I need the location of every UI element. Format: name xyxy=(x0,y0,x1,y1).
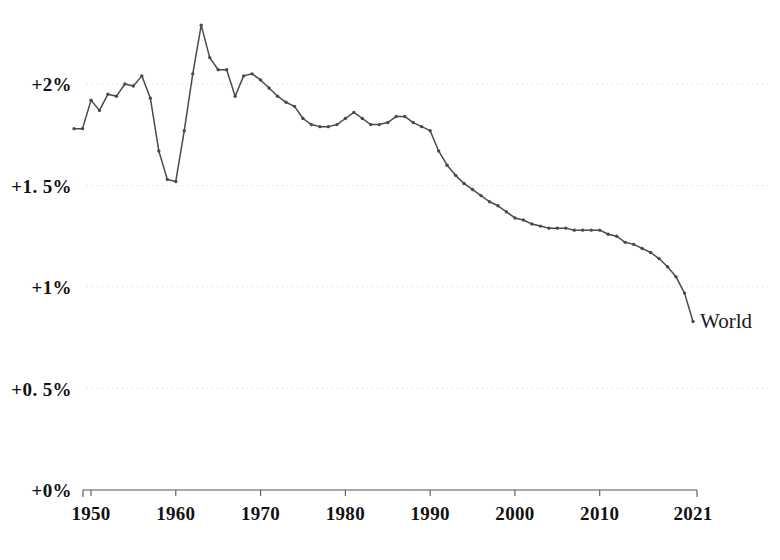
x-axis-tick-label: 1990 xyxy=(411,504,450,523)
population-growth-chart: +0%+0. 5%+1%+1. 5%+2% 195019601970198019… xyxy=(0,0,780,560)
x-axis-tick-label: 2010 xyxy=(580,504,619,523)
x-axis-tick-label: 1950 xyxy=(71,504,110,523)
x-axis-tick-labels: 19501960197019801990200020102021 xyxy=(0,0,780,560)
x-axis-tick-label: 2021 xyxy=(673,504,712,523)
series-label-world: World xyxy=(700,311,752,332)
x-axis-tick-label: 1980 xyxy=(326,504,365,523)
x-axis-tick-label: 1970 xyxy=(241,504,280,523)
x-axis-tick-label: 1960 xyxy=(156,504,195,523)
x-axis-tick-label: 2000 xyxy=(495,504,534,523)
